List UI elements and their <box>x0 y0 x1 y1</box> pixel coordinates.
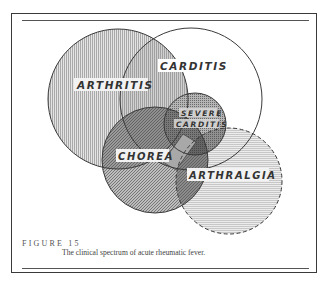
label-arthritis: ARTHRITIS <box>76 79 154 91</box>
label-chorea: CHOREA <box>118 151 174 162</box>
label-carditis: CARDITIS <box>160 60 228 72</box>
label-severe-carditis: CARDITIS <box>176 120 228 129</box>
label-arthralgia: ARTHRALGIA <box>188 170 277 181</box>
label-severe: SEVERE <box>181 109 223 118</box>
figure-caption: The clinical spectrum of acute rheumatic… <box>62 248 205 257</box>
figure-number: FIGURE 15 <box>22 239 81 248</box>
